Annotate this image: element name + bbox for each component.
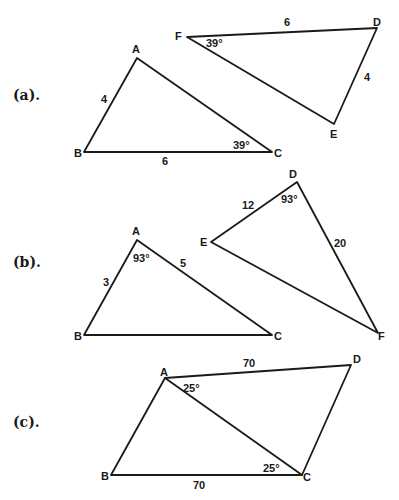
vertex-label-d: D [353, 353, 361, 365]
part-label-a: (a). [13, 87, 40, 103]
triangle-abc-b: A B C 3 5 93° [74, 225, 282, 342]
angle-label-a: 25° [183, 382, 200, 394]
angle-label-a: 93° [133, 252, 150, 264]
geometry-figure: (a). A B C 4 6 39° F D E 6 4 39° (b). A … [0, 0, 399, 500]
triangle-abc-a: A B C 4 6 39° [74, 43, 282, 167]
triangle-abc-outline [84, 58, 272, 152]
vertex-label-b: B [74, 147, 82, 159]
triangle-def-b: D E F 12 20 93° [200, 168, 385, 342]
side-label-de: 12 [242, 199, 254, 211]
part-label-c: (c). [13, 414, 40, 430]
figure-b: (b). A B C 3 5 93° D E F 12 20 93° [13, 168, 385, 342]
angle-label-c: 39° [233, 139, 250, 151]
vertex-label-a: A [132, 225, 140, 237]
side-label-ab: 4 [101, 93, 108, 105]
triangle-abc-outline [84, 240, 272, 335]
vertex-label-e: E [200, 236, 207, 248]
vertex-label-a: A [160, 366, 168, 378]
quadrilateral-abcd-c: A B C D 70 70 25° 25° [101, 353, 361, 491]
angle-label-f: 39° [206, 37, 223, 49]
vertex-label-a: A [132, 43, 140, 55]
side-label-ac: 5 [180, 257, 186, 269]
figure-c: (c). A B C D 70 70 25° 25° [13, 353, 361, 491]
side-label-fd: 6 [284, 16, 290, 28]
vertex-label-b: B [101, 470, 109, 482]
figure-a: (a). A B C 4 6 39° F D E 6 4 39° [13, 16, 381, 167]
side-label-df: 20 [334, 237, 346, 249]
angle-label-c: 25° [263, 462, 280, 474]
vertex-label-f: F [378, 330, 385, 342]
vertex-label-b: B [74, 330, 82, 342]
vertex-label-c: C [303, 471, 311, 483]
vertex-label-e: E [330, 128, 337, 140]
side-label-ad: 70 [243, 357, 255, 369]
side-label-bc: 70 [193, 479, 205, 491]
triangle-fde-a: F D E 6 4 39° [175, 16, 381, 140]
part-label-b: (b). [13, 254, 41, 270]
vertex-label-d: D [289, 168, 297, 180]
quadrilateral-outline [111, 365, 351, 475]
side-label-bc: 6 [162, 155, 168, 167]
vertex-label-f: F [175, 30, 182, 42]
angle-label-d: 93° [281, 193, 298, 205]
vertex-label-c: C [274, 330, 282, 342]
side-label-de: 4 [364, 71, 371, 83]
vertex-label-c: C [274, 147, 282, 159]
vertex-label-d: D [373, 16, 381, 28]
side-label-ab: 3 [103, 276, 109, 288]
